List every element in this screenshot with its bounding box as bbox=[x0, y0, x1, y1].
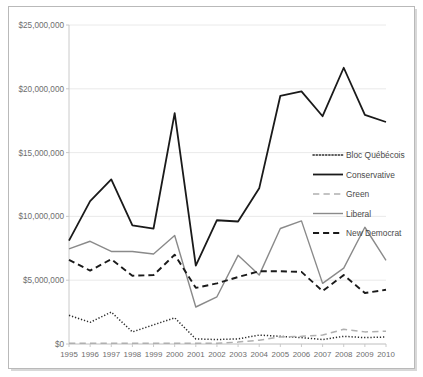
legend-item-conservative[interactable]: Conservative bbox=[313, 170, 395, 180]
legend-label: New Democrat bbox=[346, 228, 402, 238]
legend-label: Bloc Québécois bbox=[346, 150, 405, 160]
x-axis-tick-labels: 1995199619971998199920002001200220032004… bbox=[60, 344, 395, 359]
x-axis-tick-label: 1998 bbox=[124, 350, 142, 359]
legend-label: Liberal bbox=[346, 209, 371, 219]
series-lines bbox=[69, 68, 386, 343]
x-axis-tick-label: 2005 bbox=[272, 350, 290, 359]
x-axis-tick-label: 2006 bbox=[293, 350, 311, 359]
chart-canvas: $0$5,000,000$10,000,000$15,000,000$20,00… bbox=[9, 7, 414, 368]
x-axis-tick-label: 2000 bbox=[166, 350, 184, 359]
series-line-green bbox=[69, 329, 386, 343]
x-axis-tick-label: 2001 bbox=[187, 350, 205, 359]
legend-item-bloc-qu-b-cois[interactable]: Bloc Québécois bbox=[313, 150, 405, 160]
x-axis-tick-label: 2004 bbox=[250, 350, 268, 359]
legend-item-green[interactable]: Green bbox=[313, 189, 370, 199]
figure-frame: $0$5,000,000$10,000,000$15,000,000$20,00… bbox=[8, 6, 415, 369]
y-axis-tick-label: $5,000,000 bbox=[23, 276, 64, 285]
legend-item-liberal[interactable]: Liberal bbox=[313, 209, 371, 219]
legend-label: Conservative bbox=[346, 170, 395, 180]
x-axis-tick-label: 2007 bbox=[314, 350, 332, 359]
x-axis-tick-label: 2003 bbox=[229, 350, 247, 359]
x-axis-tick-label: 2010 bbox=[377, 350, 395, 359]
axes bbox=[69, 25, 386, 344]
x-axis-tick-label: 1995 bbox=[60, 350, 78, 359]
legend-label: Green bbox=[346, 189, 370, 199]
series-line-conservative bbox=[69, 68, 386, 266]
x-axis-tick-label: 2008 bbox=[335, 350, 353, 359]
x-axis-tick-label: 1996 bbox=[81, 350, 99, 359]
y-axis-tick-label: $10,000,000 bbox=[18, 212, 64, 221]
chart-legend: Bloc QuébécoisConservativeGreenLiberalNe… bbox=[313, 150, 405, 238]
x-axis-tick-label: 1997 bbox=[102, 350, 120, 359]
x-axis-tick-label: 2002 bbox=[208, 350, 226, 359]
line-chart: $0$5,000,000$10,000,000$15,000,000$20,00… bbox=[9, 7, 414, 368]
y-axis-tick-label: $15,000,000 bbox=[18, 149, 64, 158]
x-axis-tick-label: 1999 bbox=[145, 350, 163, 359]
y-axis-tick-label: $0 bbox=[55, 340, 65, 349]
y-axis-tick-label: $25,000,000 bbox=[18, 21, 64, 30]
x-axis-tick-label: 2009 bbox=[356, 350, 374, 359]
legend-item-new-democrat[interactable]: New Democrat bbox=[313, 228, 402, 238]
y-axis-tick-label: $20,000,000 bbox=[18, 85, 64, 94]
y-axis-tick-labels: $0$5,000,000$10,000,000$15,000,000$20,00… bbox=[18, 21, 69, 349]
series-line-new-democrat bbox=[69, 255, 386, 293]
series-line-bloc-qu-b-cois bbox=[69, 312, 386, 339]
gridlines bbox=[69, 25, 386, 344]
